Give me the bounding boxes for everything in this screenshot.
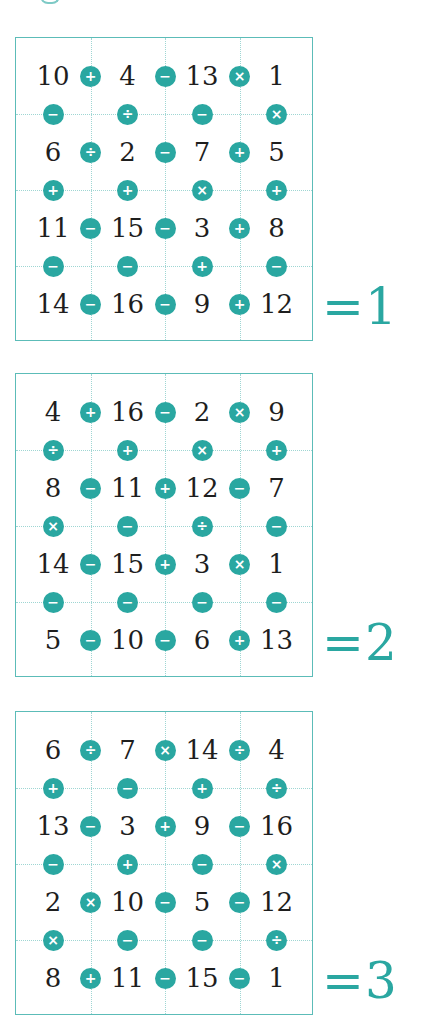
grid-number: 16 — [252, 811, 302, 841]
grid-number: 2 — [28, 887, 78, 917]
grid-number: 4 — [103, 61, 153, 91]
minus-operator-icon: − — [43, 592, 64, 613]
times-operator-icon: × — [43, 930, 64, 951]
grid-number: 9 — [252, 397, 302, 427]
minus-operator-icon: − — [80, 816, 101, 837]
minus-operator-icon: − — [117, 592, 138, 613]
grid-number: 6 — [177, 625, 227, 655]
plus-operator-icon: + — [229, 630, 250, 651]
grid-number: 5 — [252, 137, 302, 167]
minus-operator-icon: − — [117, 778, 138, 799]
minus-operator-icon: − — [117, 516, 138, 537]
puzzle-target-result: =1 — [322, 282, 398, 332]
plus-operator-icon: + — [266, 180, 287, 201]
times-operator-icon: × — [80, 892, 101, 913]
grid-number: 13 — [252, 625, 302, 655]
times-operator-icon: × — [229, 402, 250, 423]
grid-number: 16 — [103, 397, 153, 427]
grid-number: 8 — [28, 473, 78, 503]
minus-operator-icon: − — [229, 892, 250, 913]
grid-number: 9 — [177, 289, 227, 319]
grid-number: 7 — [252, 473, 302, 503]
grid-number: 2 — [177, 397, 227, 427]
grid-number: 3 — [177, 213, 227, 243]
plus-operator-icon: + — [80, 402, 101, 423]
plus-operator-icon: + — [266, 440, 287, 461]
puzzle-grid-1: 10413162751115381416912+−×÷−+−−+−−+−÷−×+… — [15, 37, 313, 341]
grid-number: 11 — [103, 963, 153, 993]
grid-number: 12 — [252, 289, 302, 319]
minus-operator-icon: − — [229, 816, 250, 837]
minus-operator-icon: − — [155, 66, 176, 87]
minus-operator-icon: − — [266, 516, 287, 537]
divide-operator-icon: ÷ — [229, 740, 250, 761]
times-operator-icon: × — [43, 516, 64, 537]
grid-number: 3 — [177, 549, 227, 579]
grid-number: 13 — [177, 61, 227, 91]
grid-number: 10 — [28, 61, 78, 91]
minus-operator-icon: − — [80, 218, 101, 239]
divide-operator-icon: ÷ — [80, 142, 101, 163]
plus-operator-icon: + — [155, 554, 176, 575]
minus-operator-icon: − — [43, 256, 64, 277]
minus-operator-icon: − — [155, 402, 176, 423]
plus-operator-icon: + — [192, 256, 213, 277]
plus-operator-icon: + — [155, 478, 176, 499]
grid-number: 12 — [177, 473, 227, 503]
plus-operator-icon: + — [229, 218, 250, 239]
grid-number: 8 — [252, 213, 302, 243]
plus-operator-icon: + — [80, 66, 101, 87]
cropped-heading-fragment — [40, 0, 60, 4]
plus-operator-icon: + — [117, 440, 138, 461]
minus-operator-icon: − — [155, 142, 176, 163]
minus-operator-icon: − — [192, 104, 213, 125]
puzzle-grid-2: 41629811127141531510613+−×−+−−+×−−+÷+×+×… — [15, 373, 313, 677]
minus-operator-icon: − — [192, 930, 213, 951]
grid-number: 1 — [252, 549, 302, 579]
grid-number: 14 — [28, 549, 78, 579]
grid-number: 2 — [103, 137, 153, 167]
times-operator-icon: × — [266, 104, 287, 125]
minus-operator-icon: − — [80, 630, 101, 651]
minus-operator-icon: − — [117, 256, 138, 277]
plus-operator-icon: + — [229, 294, 250, 315]
minus-operator-icon: − — [43, 104, 64, 125]
divide-operator-icon: ÷ — [266, 778, 287, 799]
minus-operator-icon: − — [155, 630, 176, 651]
minus-operator-icon: − — [229, 968, 250, 989]
minus-operator-icon: − — [80, 554, 101, 575]
minus-operator-icon: − — [155, 218, 176, 239]
puzzle-target-result: =2 — [322, 618, 398, 668]
divide-operator-icon: ÷ — [117, 104, 138, 125]
minus-operator-icon: − — [43, 854, 64, 875]
grid-number: 12 — [252, 887, 302, 917]
plus-operator-icon: + — [43, 778, 64, 799]
plus-operator-icon: + — [43, 180, 64, 201]
grid-number: 16 — [103, 289, 153, 319]
minus-operator-icon: − — [155, 294, 176, 315]
plus-operator-icon: + — [155, 816, 176, 837]
divide-operator-icon: ÷ — [43, 440, 64, 461]
grid-number: 15 — [103, 213, 153, 243]
times-operator-icon: × — [192, 440, 213, 461]
grid-number: 1 — [252, 61, 302, 91]
grid-number: 11 — [28, 213, 78, 243]
grid-number: 5 — [28, 625, 78, 655]
minus-operator-icon: − — [229, 478, 250, 499]
plus-operator-icon: + — [117, 854, 138, 875]
plus-operator-icon: + — [229, 142, 250, 163]
grid-number: 13 — [28, 811, 78, 841]
minus-operator-icon: − — [80, 294, 101, 315]
plus-operator-icon: + — [80, 968, 101, 989]
times-operator-icon: × — [229, 66, 250, 87]
times-operator-icon: × — [266, 854, 287, 875]
grid-number: 6 — [28, 137, 78, 167]
times-operator-icon: × — [155, 740, 176, 761]
minus-operator-icon: − — [266, 592, 287, 613]
grid-number: 15 — [177, 963, 227, 993]
grid-number: 8 — [28, 963, 78, 993]
minus-operator-icon: − — [192, 592, 213, 613]
grid-number: 4 — [252, 735, 302, 765]
minus-operator-icon: − — [266, 256, 287, 277]
grid-number: 5 — [177, 887, 227, 917]
